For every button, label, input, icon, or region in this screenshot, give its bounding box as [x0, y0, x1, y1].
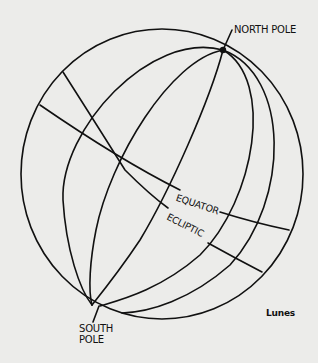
- north-pole-point: [220, 47, 226, 53]
- south-pole-label: SOUTH POLE: [79, 323, 119, 345]
- meridian-5: [122, 50, 274, 313]
- north-pole-label: NORTH POLE: [234, 24, 296, 35]
- lunes-diagram: NORTH POLE SOUTH POLE EQUATOR ECLIPTIC L…: [0, 0, 318, 363]
- ecliptic-line: [63, 72, 262, 272]
- equator-line: [40, 105, 289, 230]
- figure-caption: Lunes: [266, 308, 295, 319]
- south-pole-pointer: [93, 306, 99, 322]
- meridian-1: [63, 47, 223, 305]
- meridian-4: [100, 50, 253, 306]
